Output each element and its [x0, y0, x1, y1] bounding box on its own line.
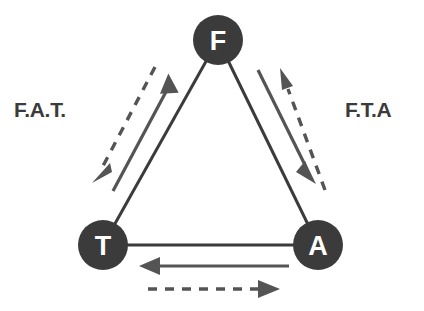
- arrowhead-left-solid: [139, 257, 160, 275]
- edge-f-to-t: [103, 40, 218, 245]
- triangle-edges: [103, 40, 318, 245]
- arrowhead-up-left-dashed: [280, 68, 293, 90]
- node-t-label: T: [95, 231, 112, 261]
- arrowhead-down-left-dashed: [92, 163, 112, 183]
- arrowhead-right-dashed: [258, 280, 280, 298]
- bottom-flow-group: [139, 257, 289, 298]
- flow-arrow-t-to-f-solid: [113, 73, 179, 191]
- node-a-label: A: [308, 231, 328, 261]
- arrowhead-down-right-solid: [296, 161, 316, 184]
- triangle-diagram-canvas: F T A: [0, 0, 424, 311]
- node-f[interactable]: F: [193, 15, 243, 65]
- node-f-label: F: [210, 26, 227, 56]
- edge-f-to-a: [218, 40, 318, 245]
- flow-arrow-t-to-a-dashed: [148, 280, 280, 298]
- flow-arrow-f-to-t-dashed: [92, 67, 155, 183]
- label-fta: F.T.A: [345, 98, 391, 122]
- label-fat: F.A.T.: [14, 98, 66, 122]
- arrowhead-up-right-solid: [153, 73, 178, 100]
- flow-arrow-a-to-t-solid: [139, 257, 289, 275]
- node-t[interactable]: T: [78, 220, 128, 270]
- left-flow-group: [92, 67, 179, 191]
- right-flow-group: [258, 68, 325, 190]
- node-a[interactable]: A: [293, 220, 343, 270]
- diagram-root: F T A F.A.T. F.T.A: [0, 0, 424, 311]
